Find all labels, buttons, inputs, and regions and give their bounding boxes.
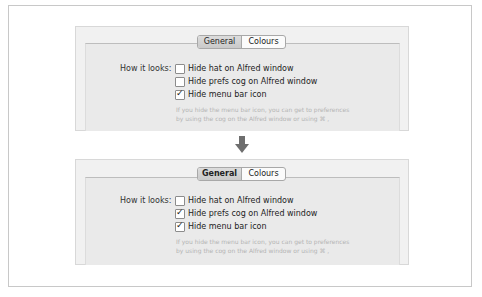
option-label: Hide hat on Alfred window (188, 195, 293, 207)
checkmark-icon: ✓ (176, 88, 184, 98)
hint-line-2: by using the cog on the Alfred window or… (176, 246, 376, 255)
arrow-down-icon (233, 136, 251, 154)
option-label: Hide prefs cog on Alfred window (188, 76, 317, 88)
option-hide-hat[interactable]: Hide hat on Alfred window (175, 195, 293, 207)
hint-text: If you hide the menu bar icon, you can g… (176, 105, 376, 123)
option-label: Hide menu bar icon (188, 221, 267, 233)
option-hide-menu-bar-icon[interactable]: ✓ Hide menu bar icon (175, 221, 267, 233)
tab-colours[interactable]: Colours (242, 36, 285, 48)
option-hide-prefs-cog[interactable]: Hide prefs cog on Alfred window (175, 76, 317, 88)
how-it-looks-label: How it looks: (120, 195, 171, 207)
checkmark-icon: ✓ (176, 207, 184, 217)
tab-general[interactable]: General (198, 168, 242, 180)
segmented-control: General Colours (197, 35, 286, 49)
checkbox-hide-prefs-cog[interactable]: ✓ (175, 209, 185, 219)
checkbox-hide-prefs-cog[interactable] (175, 77, 185, 87)
tab-colours[interactable]: Colours (242, 168, 285, 180)
option-hide-menu-bar-icon[interactable]: ✓ Hide menu bar icon (175, 89, 267, 101)
checkbox-hide-menu-bar-icon[interactable]: ✓ (175, 90, 185, 100)
preferences-panel-after: General Colours How it looks: Hide hat o… (75, 159, 409, 265)
checkmark-icon: ✓ (176, 220, 184, 230)
how-it-looks-label: How it looks: (120, 63, 171, 75)
option-label: Hide hat on Alfred window (188, 63, 293, 75)
hint-line-1: If you hide the menu bar icon, you can g… (176, 105, 376, 114)
hint-line-2: by using the cog on the Alfred window or… (176, 114, 376, 123)
checkbox-hide-hat[interactable] (175, 64, 185, 74)
preferences-panel-before: General Colours How it looks: Hide hat o… (75, 26, 409, 131)
hint-line-1: If you hide the menu bar icon, you can g… (176, 237, 376, 246)
segmented-control: General Colours (197, 167, 286, 181)
option-label: Hide prefs cog on Alfred window (188, 208, 317, 220)
option-hide-prefs-cog[interactable]: ✓ Hide prefs cog on Alfred window (175, 208, 317, 220)
option-label: Hide menu bar icon (188, 89, 267, 101)
checkbox-hide-menu-bar-icon[interactable]: ✓ (175, 222, 185, 232)
option-hide-hat[interactable]: Hide hat on Alfred window (175, 63, 293, 75)
hint-text: If you hide the menu bar icon, you can g… (176, 237, 376, 255)
tab-general[interactable]: General (198, 36, 242, 48)
checkbox-hide-hat[interactable] (175, 196, 185, 206)
